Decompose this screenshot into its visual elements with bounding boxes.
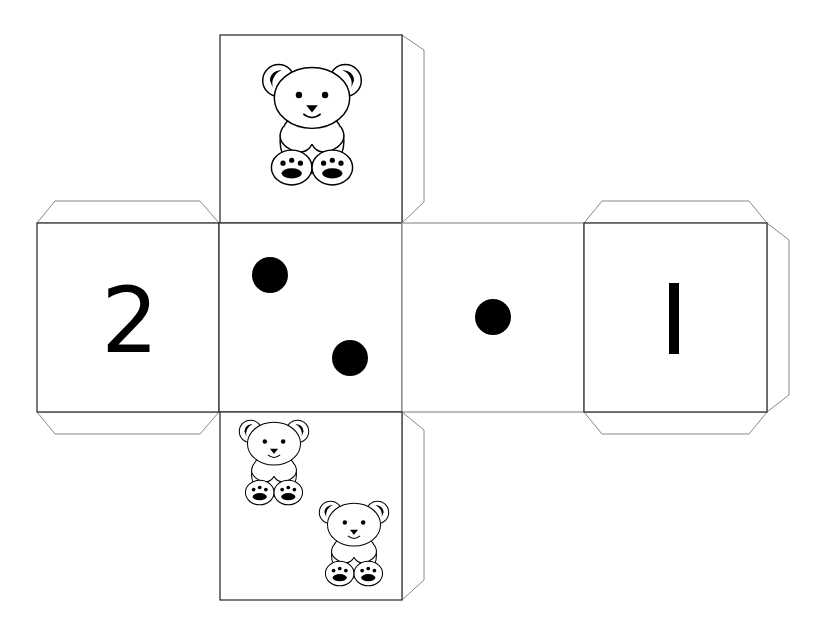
numeral-one-label xyxy=(669,283,679,354)
pip-icon xyxy=(332,340,368,376)
tab-left-bottom xyxy=(37,412,219,434)
numeral-two-label: 2 xyxy=(80,276,180,366)
pip-icon xyxy=(252,257,288,293)
tab-left-top xyxy=(37,201,219,223)
tab-right-top xyxy=(584,201,767,223)
tab-top-right xyxy=(402,35,424,223)
pip-icon xyxy=(475,299,511,335)
tab-right-side xyxy=(767,223,789,412)
face-center-left xyxy=(219,223,402,412)
tab-right-bottom xyxy=(584,412,767,434)
tab-bottom-right xyxy=(402,412,424,600)
